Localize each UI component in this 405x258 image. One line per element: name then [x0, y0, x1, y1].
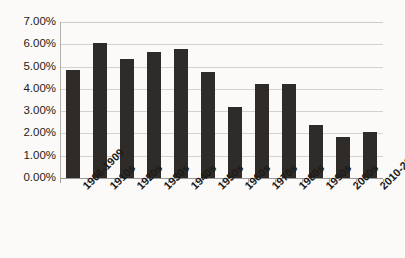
x-axis-tick-label: 1906-1909 [81, 184, 89, 192]
bar [174, 49, 188, 178]
y-axis-tick-label: 5.00% [4, 61, 56, 73]
y-axis-tick-label: 7.00% [4, 16, 56, 28]
x-axis-tick [141, 179, 142, 183]
y-axis-labels: 0.00%1.00%2.00%3.00%4.00%5.00%6.00%7.00% [0, 22, 56, 178]
x-axis-tick [168, 179, 169, 183]
x-axis-tick [114, 179, 115, 183]
x-axis-tick-label: 2000s [351, 184, 359, 192]
x-axis-tick-label: 1950s [216, 184, 224, 192]
x-axis-tick [195, 179, 196, 183]
x-axis-tick [87, 179, 88, 183]
x-axis-tick [356, 179, 357, 183]
y-axis-tick-label: 0.00% [4, 172, 56, 184]
x-axis-tick [329, 179, 330, 183]
y-axis-tick-label: 2.00% [4, 128, 56, 140]
x-axis-tick-label: 1980s [297, 184, 305, 192]
bar [147, 52, 161, 178]
x-axis-tick [275, 179, 276, 183]
x-axis-tick [383, 179, 384, 183]
x-axis-tick-label: 1990s [324, 184, 332, 192]
x-axis-tick [302, 179, 303, 183]
y-axis-tick-label: 3.00% [4, 105, 56, 117]
x-axis-tick [248, 179, 249, 183]
x-axis-tick-label: 1910s [108, 184, 116, 192]
y-axis-tick-label: 6.00% [4, 39, 56, 51]
x-axis-tick-label: 2010-2015 [378, 184, 386, 192]
x-axis-tick-label: 1930s [162, 184, 170, 192]
bar-chart: 0.00%1.00%2.00%3.00%4.00%5.00%6.00%7.00%… [0, 0, 405, 258]
y-axis-tick-label: 1.00% [4, 150, 56, 162]
x-axis-tick [60, 179, 61, 183]
x-axis-tick-label: 1940s [189, 184, 197, 192]
y-axis-tick-label: 4.00% [4, 83, 56, 95]
x-axis-tick-label: 1970s [270, 184, 278, 192]
x-axis-tick-label: 1960s [243, 184, 251, 192]
bar [120, 59, 134, 178]
x-axis-tick-label: 1920s [135, 184, 143, 192]
bar [66, 70, 80, 178]
x-axis-labels: 1906-19091910s1920s1930s1940s1950s1960s1… [60, 184, 383, 258]
x-axis-tick [222, 179, 223, 183]
